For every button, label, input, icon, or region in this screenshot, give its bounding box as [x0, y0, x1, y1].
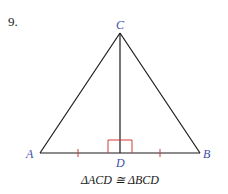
segment-ac [40, 33, 120, 153]
vertex-label-b: B [203, 148, 210, 160]
vertex-label-d: D [116, 157, 125, 169]
geometry-figure: 9. C A B D ΔACD ≅ ΔBCD [0, 0, 228, 194]
vertex-label-c: C [116, 19, 124, 31]
vertex-label-a: A [26, 148, 33, 160]
triangle-diagram [0, 0, 228, 194]
congruence-statement: ΔACD ≅ ΔBCD [0, 173, 228, 188]
segment-bc [120, 33, 200, 153]
problem-number: 9. [8, 14, 18, 30]
